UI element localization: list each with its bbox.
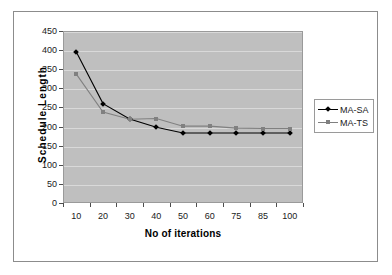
x-tick-label: 20 bbox=[98, 211, 108, 221]
x-tick-label: 85 bbox=[258, 211, 268, 221]
legend-marker-square-icon bbox=[318, 117, 338, 128]
x-axis-title: No of iterations bbox=[63, 228, 303, 239]
x-tick-mark bbox=[250, 203, 251, 207]
x-tick-mark bbox=[116, 203, 117, 207]
y-tick-mark bbox=[59, 50, 63, 51]
data-point-ma-ts bbox=[261, 127, 265, 131]
data-point-ma-ts bbox=[288, 127, 292, 131]
x-tick-mark bbox=[170, 203, 171, 207]
data-point-ma-ts bbox=[128, 117, 132, 121]
y-tick-mark bbox=[59, 146, 63, 147]
y-tick-mark bbox=[59, 31, 63, 32]
x-tick-mark bbox=[90, 203, 91, 207]
y-tick-mark bbox=[59, 127, 63, 128]
data-point-ma-ts bbox=[74, 72, 78, 76]
x-tick-mark bbox=[276, 203, 277, 207]
x-tick-label: 60 bbox=[205, 211, 215, 221]
data-point-ma-ts bbox=[181, 124, 185, 128]
data-point-ma-sa bbox=[180, 130, 186, 136]
chart-plot-container: 450400350300250200150100500 102030405060… bbox=[0, 0, 392, 275]
y-tick-mark bbox=[59, 88, 63, 89]
x-tick-label: 50 bbox=[178, 211, 188, 221]
data-point-ma-ts bbox=[101, 110, 105, 114]
x-tick-mark bbox=[223, 203, 224, 207]
x-tick-label: 40 bbox=[151, 211, 161, 221]
data-point-ma-ts bbox=[154, 117, 158, 121]
legend-label: MA-TS bbox=[338, 118, 368, 128]
y-tick-mark bbox=[59, 165, 63, 166]
x-tick-label: 30 bbox=[125, 211, 135, 221]
data-point-ma-sa bbox=[207, 130, 213, 136]
x-tick-mark bbox=[143, 203, 144, 207]
data-point-ma-sa bbox=[153, 124, 159, 130]
data-point-ma-sa bbox=[233, 130, 239, 136]
y-tick-mark bbox=[59, 69, 63, 70]
data-point-ma-sa bbox=[260, 130, 266, 136]
y-axis-title: Schedule Length bbox=[37, 29, 48, 201]
legend-item-ma-sa: MA-SA bbox=[318, 103, 369, 116]
data-point-ma-sa bbox=[100, 101, 106, 107]
legend-item-ma-ts: MA-TS bbox=[318, 116, 369, 129]
data-point-ma-ts bbox=[234, 126, 238, 130]
legend-label: MA-SA bbox=[338, 105, 369, 115]
data-point-ma-sa bbox=[73, 49, 79, 55]
y-axis: 450400350300250200150100500 bbox=[0, 31, 63, 203]
x-tick-mark bbox=[196, 203, 197, 207]
x-tick-mark bbox=[63, 203, 64, 207]
chart-figure: 450400350300250200150100500 102030405060… bbox=[0, 0, 392, 275]
x-tick-label: 100 bbox=[282, 211, 297, 221]
y-tick-label: 50 bbox=[47, 179, 57, 188]
data-point-ma-ts bbox=[208, 124, 212, 128]
x-tick-mark bbox=[303, 203, 304, 207]
markers-layer bbox=[63, 31, 303, 203]
x-tick-label: 10 bbox=[71, 211, 81, 221]
data-point-ma-sa bbox=[287, 130, 293, 136]
x-axis: 1020304050607585100 bbox=[63, 203, 303, 229]
chart-legend: MA-SAMA-TS bbox=[314, 99, 374, 133]
y-tick-mark bbox=[59, 107, 63, 108]
x-tick-label: 75 bbox=[231, 211, 241, 221]
legend-marker-diamond-icon bbox=[318, 104, 338, 115]
y-tick-mark bbox=[59, 184, 63, 185]
y-tick-label: 0 bbox=[52, 199, 57, 208]
